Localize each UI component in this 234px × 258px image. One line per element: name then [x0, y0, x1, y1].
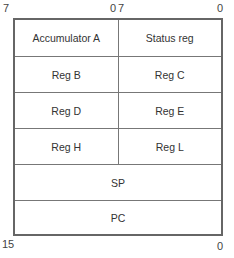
register-c: Reg C — [119, 57, 222, 93]
register-row-b-c: Reg B Reg C — [15, 56, 221, 93]
bit-label-bottom-15: 15 — [2, 239, 14, 250]
register-b: Reg B — [15, 57, 119, 93]
register-row-pc: PC — [15, 200, 221, 235]
register-l: Reg L — [119, 129, 222, 165]
register-h: Reg H — [15, 129, 119, 165]
bit-label-top-left-0: 0 — [110, 3, 116, 14]
bit-label-top-right-0: 0 — [217, 3, 223, 14]
register-pc: PC — [15, 201, 221, 235]
register-d: Reg D — [15, 93, 119, 129]
bit-label-top-right-7: 7 — [118, 3, 124, 14]
register-accumulator-a: Accumulator A — [15, 20, 119, 56]
register-row-h-l: Reg H Reg L — [15, 128, 221, 165]
register-row-a-status: Accumulator A Status reg — [15, 20, 221, 56]
register-set-diagram: Accumulator A Status reg Reg B Reg C Reg… — [13, 18, 223, 236]
register-status: Status reg — [119, 20, 222, 56]
register-sp: SP — [15, 165, 221, 201]
register-row-d-e: Reg D Reg E — [15, 92, 221, 129]
register-e: Reg E — [119, 93, 222, 129]
bit-label-top-left-7: 7 — [3, 3, 9, 14]
register-row-sp: SP — [15, 164, 221, 201]
bit-label-bottom-0: 0 — [217, 241, 223, 252]
